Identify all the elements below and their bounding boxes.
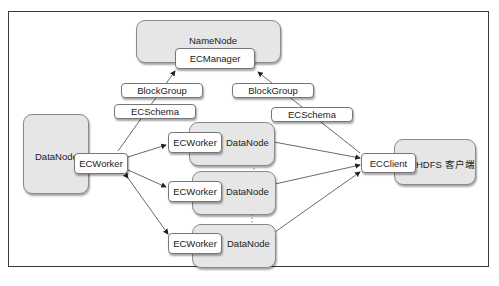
message-blockgroup-right: BlockGroup [232,83,314,98]
middle-ecworker-3-box: ECWorker [168,233,222,254]
middle-ecworker-2-box: ECWorker [168,181,222,202]
message-blockgroup-left: BlockGroup [121,83,203,98]
ecclient-box: ECClient [361,153,416,173]
left-datanode-label: DataNode [35,151,78,162]
middle-datanode-3-label: DataNode [227,238,270,249]
message-ecschema-left: ECSchema [114,104,196,119]
message-ecschema-right: ECSchema [271,107,353,122]
middle-datanode-2-label: DataNode [226,186,269,197]
middle-datanode-1-label: DataNode [226,137,269,148]
hdfs-client-label: HDFS 客户端 [416,157,475,171]
ecmanager-box: ECManager [175,48,255,69]
middle-ecworker-1-box: ECWorker [168,132,222,153]
namenode-label: NameNode [189,35,237,46]
left-ecworker-box: ECWorker [74,153,128,174]
